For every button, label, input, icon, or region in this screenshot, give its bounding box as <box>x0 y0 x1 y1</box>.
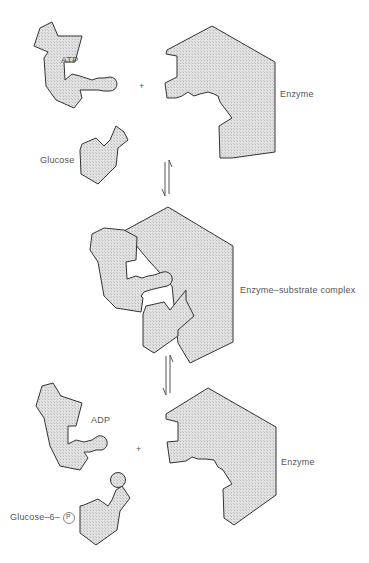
enzyme-label-2: Enzyme <box>281 457 315 467</box>
plus-sign-1: + <box>139 81 144 91</box>
equilibrium-arrow-1 <box>162 160 172 196</box>
atp-label: ATP <box>61 55 78 65</box>
diagram-canvas <box>0 0 369 563</box>
enzyme-label-1: Enzyme <box>280 89 314 99</box>
enzyme-reactant <box>165 26 275 158</box>
complex-label: Enzyme–substrate complex <box>240 285 355 295</box>
equilibrium-arrow-2 <box>163 355 173 395</box>
plus-sign-2: + <box>136 444 141 454</box>
glucose-label: Glucose <box>40 155 74 165</box>
atp-molecule <box>34 22 117 108</box>
phosphate-label: P <box>66 513 71 520</box>
adp-label: ADP <box>91 415 110 425</box>
glucose-6-phosphate-molecule <box>80 473 130 546</box>
phosphate-group <box>111 473 126 488</box>
adp-molecule <box>36 383 107 470</box>
glucose-molecule <box>80 126 128 184</box>
enzyme-product <box>166 388 276 525</box>
glucose-6-phosphate-label: Glucose–6– <box>10 512 60 522</box>
